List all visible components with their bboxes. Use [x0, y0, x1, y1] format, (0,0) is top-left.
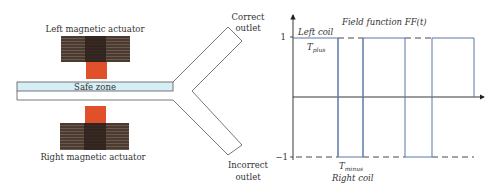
left-actuator-tip [86, 62, 107, 79]
left-magnetic-actuator [61, 36, 130, 79]
channel-diagram: Left magnetic actuator Safe zone Correct… [17, 12, 269, 182]
incorrect-outlet-label-2: outlet [235, 172, 261, 182]
right-actuator-tip [85, 106, 106, 123]
t-plus-label: Tplus [307, 42, 325, 54]
safe-zone-label: Safe zone [74, 82, 116, 92]
right-magnetic-actuator [60, 106, 129, 150]
right-actuator-label: Right magnetic actuator [40, 152, 146, 162]
right-coil-label: Right coil [331, 173, 374, 183]
correct-outlet-label-2: outlet [235, 23, 261, 33]
t-minus-label: Tminus [339, 161, 363, 172]
chart-title: Field function FF(t) [341, 17, 427, 27]
y-tick-1: 1 [281, 32, 286, 42]
incorrect-outlet-label-1: Incorrect [228, 160, 269, 170]
left-coil-label: Left coil [297, 27, 334, 37]
correct-outlet-label-1: Correct [232, 12, 266, 22]
figure-canvas: Left magnetic actuator Safe zone Correct… [0, 0, 498, 192]
left-actuator-label: Left magnetic actuator [46, 24, 146, 34]
y-junction-channel [173, 27, 242, 155]
square-wave [293, 38, 474, 157]
field-function-chart: 1 −1 Field function FF(t) Left coil Tplu… [275, 15, 484, 183]
y-tick-minus-1: −1 [275, 152, 288, 162]
